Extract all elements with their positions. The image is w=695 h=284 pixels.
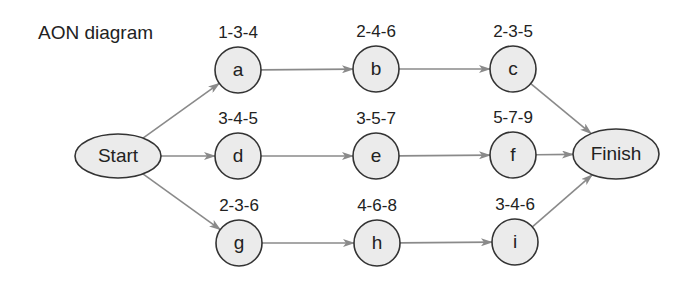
diagram-title: AON diagram <box>38 22 153 44</box>
activity-label-b: b <box>371 58 382 80</box>
activity-label-f: f <box>510 144 515 166</box>
start-label: Start <box>98 145 138 167</box>
activity-label-d: d <box>233 145 244 167</box>
arrow-c-to-finish <box>531 84 591 134</box>
activity-label-i: i <box>513 231 517 253</box>
time-estimate-g: 2-3-6 <box>219 196 259 216</box>
time-estimate-d: 3-4-5 <box>218 109 258 129</box>
time-estimate-c: 2-3-5 <box>493 22 533 42</box>
arrow-a-to-b <box>261 69 353 70</box>
time-estimate-e: 3-5-7 <box>356 109 396 129</box>
activity-label-a: a <box>233 59 244 81</box>
activity-label-e: e <box>371 145 382 167</box>
time-estimate-i: 3-4-6 <box>495 195 535 215</box>
activity-label-c: c <box>508 58 518 80</box>
time-estimate-a: 1-3-4 <box>218 23 258 43</box>
finish-label: Finish <box>591 143 642 165</box>
arrow-i-to-finish <box>532 175 592 227</box>
time-estimate-h: 4-6-8 <box>357 196 397 216</box>
arrow-e-to-f <box>399 155 490 156</box>
arrow-start-to-g <box>143 174 220 230</box>
arrow-h-to-i <box>400 242 492 243</box>
arrow-start-to-a <box>143 83 219 138</box>
activity-label-h: h <box>372 232 383 254</box>
time-estimate-b: 2-4-6 <box>356 22 396 42</box>
time-estimate-f: 5-7-9 <box>493 108 533 128</box>
activity-label-g: g <box>234 232 245 254</box>
